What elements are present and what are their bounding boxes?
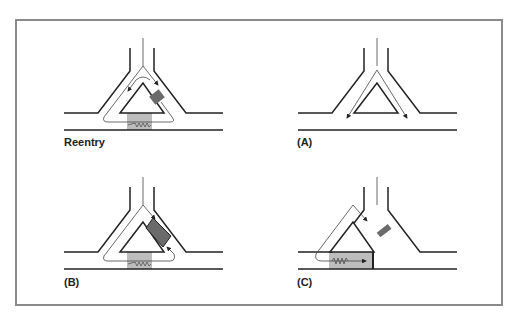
panel-reentry — [64, 38, 223, 130]
panel-b — [64, 177, 223, 269]
slow-conduction-zone — [127, 113, 152, 130]
panel-a — [298, 38, 457, 130]
label-c: (C) — [297, 276, 312, 288]
panel-c — [298, 177, 457, 269]
label-a: (A) — [297, 136, 312, 148]
label-reentry: Reentry — [64, 136, 105, 148]
label-b: (B) — [64, 276, 79, 288]
reentry-diagram — [0, 0, 518, 322]
